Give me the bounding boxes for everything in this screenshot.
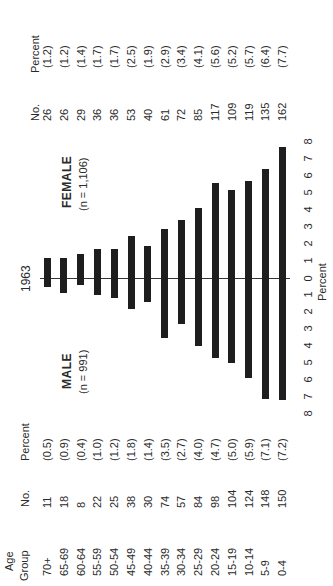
female-bar [161,229,168,278]
male-axis-tick: 6 [302,374,314,386]
male-count-value: 8 [75,502,87,508]
male-bar [77,278,84,285]
male-axis-tick: 0 [302,273,314,285]
male-count-value: 38 [125,496,137,508]
female-axis-tick: 7 [302,153,314,165]
female-count-value: 53 [125,109,137,121]
female-axis-tick: 8 [302,136,314,148]
male-label: MALE [60,353,74,389]
female-bar [262,169,269,278]
female-count-value: 117 [209,103,221,121]
female-percent-value: (1.2) [41,45,53,68]
age-group-label: 70+ [41,557,53,576]
female-bar [77,254,84,278]
female-axis-tick: 3 [302,221,314,233]
female-bar [212,183,219,278]
male-bar [262,278,269,399]
male-bar [94,278,101,295]
female-count-value: 26 [58,109,70,121]
female-count-value: 162 [276,103,288,121]
male-percent-value: (0.5) [41,438,53,461]
female-count-value: 29 [75,109,87,121]
male-percent-value: (3.5) [159,438,171,461]
female-percent-header: Percent [29,35,41,73]
female-percent-value: (4.1) [192,45,204,68]
female-bar [228,190,235,278]
male-count-value: 18 [58,496,70,508]
female-axis-tick: 6 [302,170,314,182]
age-group-label: 10-14 [243,548,255,576]
female-count-value: 40 [142,109,154,121]
female-axis-tick: 2 [302,238,314,250]
male-count-value: 22 [91,496,103,508]
female-axis-tick: 4 [302,204,314,216]
female-bar [245,181,252,278]
male-axis-tick: 5 [302,357,314,369]
male-bar [195,278,202,346]
female-percent-value: (1.7) [108,45,120,68]
male-count-value: 84 [192,496,204,508]
year-title: 1963 [20,265,32,292]
age-group-label: 40-44 [142,548,154,576]
female-percent-value: (1.7) [91,45,103,68]
female-bar [144,246,151,278]
female-percent-value: (5.2) [226,45,238,68]
female-bar [128,236,135,279]
female-percent-value: (3.4) [175,45,187,68]
female-bar [178,220,185,278]
female-count-value: 61 [159,109,171,121]
male-count-value: 98 [209,496,221,508]
female-percent-value: (7.7) [276,45,288,68]
female-n-label: (n = 1,106) [77,157,89,211]
female-percent-value: (1.2) [58,45,70,68]
female-label: FEMALE [60,156,74,208]
female-count-value: 109 [226,103,238,121]
male-percent-value: (5.9) [243,438,255,461]
female-count-value: 119 [243,103,255,121]
age-group-label: 25-29 [192,548,204,576]
male-percent-value: (4.0) [192,438,204,461]
male-bar [44,278,51,287]
female-percent-value: (5.6) [209,45,221,68]
male-axis-tick: 8 [302,408,314,420]
male-percent-header: Percent [19,423,31,461]
female-percent-value: (5.7) [243,45,255,68]
male-n-label: (n = 991) [77,350,89,394]
age-group-header-line2: Group [18,550,30,581]
female-count-value: 85 [192,109,204,121]
male-bar [212,278,219,358]
female-percent-value: (2.9) [159,45,171,68]
male-percent-value: (2.7) [175,438,187,461]
age-group-label: 60-64 [75,548,87,576]
male-bar [128,278,135,309]
age-group-label: 35-39 [159,548,171,576]
male-axis-tick: 1 [302,289,314,301]
axis-label-percent: Percent [316,263,328,301]
female-bar [279,147,286,278]
male-percent-value: (1.4) [142,438,154,461]
age-group-label: 50-54 [108,548,120,576]
male-bar [144,278,151,302]
male-bar [178,278,185,324]
male-axis-tick: 4 [302,340,314,352]
male-count-value: 104 [226,490,238,508]
male-bar [245,278,252,378]
female-bar [111,249,118,278]
female-axis-tick: 1 [302,255,314,267]
female-no-header: No. [29,104,41,121]
age-group-label: 0-4 [276,560,288,576]
male-bar [161,278,168,338]
male-percent-value: (7.1) [259,438,271,461]
female-percent-value: (1.4) [75,45,87,68]
male-percent-value: (4.7) [209,438,221,461]
female-count-value: 36 [91,109,103,121]
female-bar [195,208,202,278]
age-group-label: 5-9 [259,560,271,576]
male-bar [60,278,67,293]
female-bar [60,258,67,278]
male-count-value: 57 [175,496,187,508]
female-percent-value: (2.5) [125,45,137,68]
age-group-header-line1: Age [3,551,15,571]
age-group-label: 15-19 [226,548,238,576]
male-count-value: 11 [41,497,53,508]
